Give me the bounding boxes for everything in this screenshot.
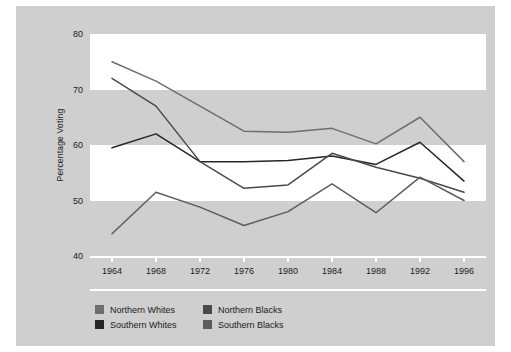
x-tick-1980 — [287, 257, 289, 262]
x-tick-label-1992: 1992 — [410, 266, 430, 276]
x-tick-label-1980: 1980 — [278, 266, 298, 276]
x-tick-1984 — [331, 257, 333, 262]
x-tick-label-1972: 1972 — [190, 266, 210, 276]
series-line-northern-blacks — [112, 78, 464, 192]
x-tick-label-1988: 1988 — [366, 266, 386, 276]
x-tick-1988 — [375, 257, 377, 262]
legend-item-northern-blacks[interactable]: Northern Blacks — [203, 302, 284, 317]
chart-legend: Northern WhitesNorthern BlacksSouthern W… — [95, 302, 284, 332]
chart-screenshot: Percentage Voting 4050607080 19641968197… — [0, 0, 511, 352]
y-tick-label-60: 60 — [73, 140, 83, 150]
x-tick-label-1968: 1968 — [146, 266, 166, 276]
legend-divider — [90, 289, 486, 291]
y-tick-label-50: 50 — [73, 196, 83, 206]
x-tick-1996 — [463, 257, 465, 262]
legend-swatch-icon — [95, 320, 104, 329]
x-tick-label-1976: 1976 — [234, 266, 254, 276]
y-axis-title: Percentage Voting — [55, 109, 65, 182]
x-tick-1964 — [111, 257, 113, 262]
x-tick-1972 — [199, 257, 201, 262]
series-lines — [90, 34, 486, 256]
series-line-southern-whites — [112, 134, 464, 181]
legend-label: Southern Whites — [110, 320, 177, 330]
y-tick-label-40: 40 — [73, 251, 83, 261]
y-tick-label-70: 70 — [73, 85, 83, 95]
legend-item-southern-blacks[interactable]: Southern Blacks — [203, 317, 284, 332]
x-tick-1992 — [419, 257, 421, 262]
x-tick-1968 — [155, 257, 157, 262]
plot-area: 4050607080 19641968197219761980198419881… — [90, 34, 486, 256]
legend-label: Northern Blacks — [218, 305, 282, 315]
legend-item-southern-whites[interactable]: Southern Whites — [95, 317, 203, 332]
legend-item-northern-whites[interactable]: Northern Whites — [95, 302, 203, 317]
x-tick-label-1996: 1996 — [454, 266, 474, 276]
legend-swatch-icon — [95, 305, 104, 314]
chart-card: Percentage Voting 4050607080 19641968197… — [16, 6, 495, 346]
legend-label: Southern Blacks — [218, 320, 284, 330]
legend-swatch-icon — [203, 305, 212, 314]
x-tick-label-1984: 1984 — [322, 266, 342, 276]
legend-label: Northern Whites — [110, 305, 175, 315]
x-tick-label-1964: 1964 — [102, 266, 122, 276]
x-tick-1976 — [243, 257, 245, 262]
y-tick-label-80: 80 — [73, 29, 83, 39]
legend-swatch-icon — [203, 320, 212, 329]
